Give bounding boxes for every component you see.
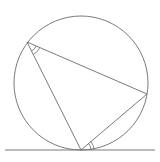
geometry-diagram — [0, 0, 160, 162]
chord-ab — [27, 42, 147, 94]
angle-mark-a-inner — [32, 46, 37, 51]
circle — [14, 16, 148, 150]
chord-ac — [27, 42, 81, 150]
